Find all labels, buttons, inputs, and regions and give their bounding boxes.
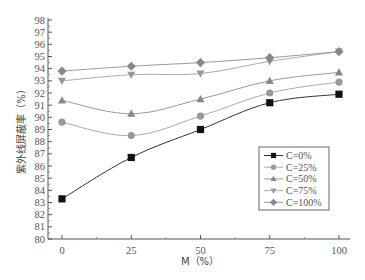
y-tick-label: 92 [35,88,46,99]
x-tick-label: 50 [195,245,206,256]
legend-label: C=50% [286,173,317,184]
y-tick-label: 93 [35,75,46,86]
triangle-up-marker-icon [335,68,343,75]
triangle-up-marker-icon [58,96,66,103]
legend: C=0%C=25%C=50%C=75%C=100% [259,147,329,210]
x-tick-label: 75 [265,245,276,256]
line-chart: 8081828384858687888990919293949596979802… [0,0,365,280]
y-tick-label: 87 [35,148,46,159]
legend-label: C=100% [286,197,322,208]
square-marker-icon [197,126,204,133]
triangle-down-marker-icon [58,78,66,85]
x-tick-label: 100 [331,245,347,256]
x-axis-title: M（%） [181,256,219,267]
circle-marker-icon [271,165,276,170]
y-axis-title: 紫外线屏蔽率（%） [15,84,27,174]
legend-label: C=75% [286,185,317,196]
diamond-marker-icon [127,62,136,71]
square-marker-icon [335,91,342,98]
y-tick-label: 97 [35,27,46,38]
circle-marker-icon [266,89,273,96]
y-tick-label: 95 [35,51,46,62]
y-tick-label: 94 [35,63,46,74]
circle-marker-icon [335,78,342,85]
diamond-marker-icon [334,47,343,56]
y-tick-label: 80 [35,234,46,245]
y-tick-label: 90 [35,112,46,123]
x-tick-label: 25 [126,245,137,256]
x-tick-label: 0 [59,245,64,256]
square-marker-icon [266,99,273,106]
y-tick-label: 98 [35,15,46,26]
y-tick-label: 82 [35,209,46,220]
y-tick-label: 91 [35,100,46,111]
axes: 8081828384858687888990919293949596979802… [35,15,351,257]
square-marker-icon [128,154,135,161]
series-line [62,72,339,113]
circle-marker-icon [197,113,204,120]
y-tick-label: 88 [35,136,46,147]
circle-marker-icon [128,132,135,139]
square-marker-icon [271,153,276,158]
y-tick-label: 89 [35,124,46,135]
diamond-marker-icon [57,67,66,76]
y-tick-label: 84 [35,185,46,196]
y-tick-label: 86 [35,161,46,172]
legend-label: C=25% [286,162,317,173]
y-tick-label: 81 [35,221,46,232]
circle-marker-icon [58,119,65,126]
y-tick-label: 96 [35,39,46,50]
y-tick-label: 83 [35,197,46,208]
square-marker-icon [58,195,65,202]
diamond-marker-icon [196,58,205,67]
y-tick-label: 85 [35,173,46,184]
legend-label: C=0% [286,150,312,161]
